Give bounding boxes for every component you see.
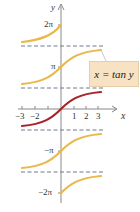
x-tick-3: 3 (96, 112, 101, 121)
y-tick-pi: π (51, 62, 56, 71)
callout-pointer (101, 50, 106, 61)
y-tick-2pi: 2π (44, 20, 53, 29)
y-axis-label: y (51, 3, 55, 12)
chart-canvas (0, 0, 140, 212)
x-tick-neg3: −3 (15, 112, 25, 121)
branch-neg-2pi (61, 176, 101, 193)
equation-callout: x = tan y (89, 61, 139, 87)
branch-2pi (22, 25, 61, 42)
x-tick-2: 2 (84, 112, 89, 121)
y-tick-neg-2pi: −2π (38, 188, 52, 197)
x-tick-1: 1 (72, 112, 77, 121)
equation-label: x = tan y (94, 68, 134, 80)
y-tick-neg-pi: −π (44, 146, 54, 155)
x-axis-label: x (121, 111, 125, 121)
x-tick-neg2: −2 (30, 112, 40, 121)
